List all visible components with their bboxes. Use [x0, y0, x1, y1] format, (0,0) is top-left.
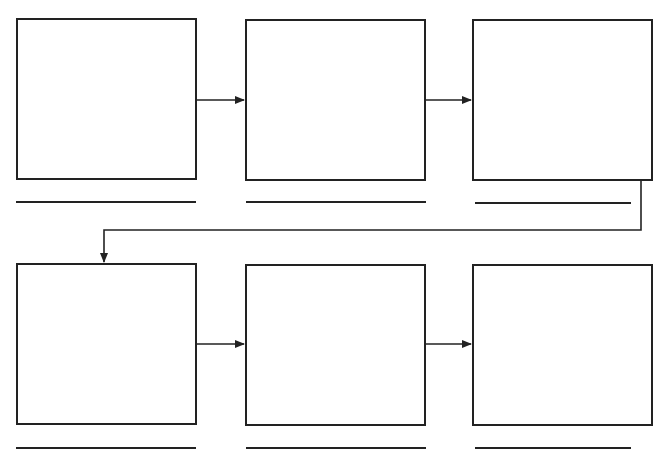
arrow-3-to-4 — [104, 181, 641, 262]
connector-arrows — [0, 0, 664, 459]
